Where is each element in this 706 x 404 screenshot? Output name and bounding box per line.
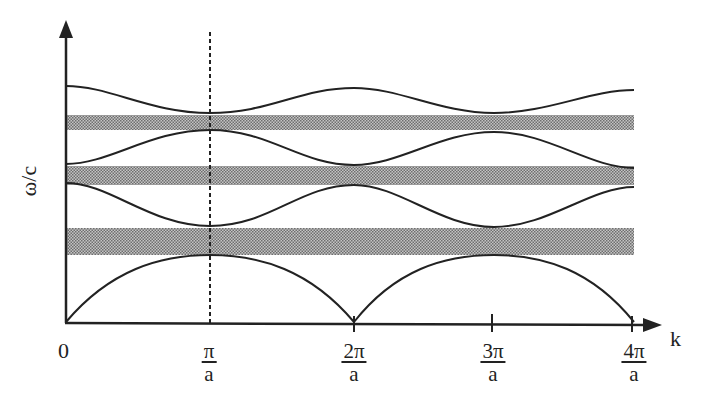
- tick-denominator: a: [488, 363, 497, 385]
- tick-denominator: a: [204, 363, 213, 385]
- tick-numerator: 2π: [341, 341, 366, 363]
- band-gap-2: [67, 166, 634, 185]
- origin-label: 0: [58, 338, 69, 364]
- band-4-curve: [66, 86, 634, 113]
- band-3-curve: [66, 130, 634, 168]
- tick-numerator: 4π: [621, 341, 646, 363]
- band-gap-3: [67, 228, 634, 255]
- y-axis-label: ω/c: [16, 166, 42, 196]
- band-gap-1: [67, 115, 634, 130]
- x-axis-arrow-icon: [643, 318, 662, 332]
- tick-numerator: π: [202, 341, 217, 363]
- x-axis: [65, 323, 648, 325]
- band-1-curve: [66, 255, 634, 322]
- band-2-curve: [66, 183, 634, 227]
- tick-denominator: a: [349, 363, 358, 385]
- tick-label-pi-over-a: π a: [202, 341, 217, 385]
- tick-numerator: 3π: [480, 341, 505, 363]
- tick-denominator: a: [629, 363, 638, 385]
- x-axis-label: k: [670, 326, 681, 352]
- tick-label-2pi-over-a: 2π a: [341, 341, 366, 385]
- tick-label-4pi-over-a: 4π a: [621, 341, 646, 385]
- tick-label-3pi-over-a: 3π a: [480, 341, 505, 385]
- y-axis-arrow-icon: [59, 20, 73, 38]
